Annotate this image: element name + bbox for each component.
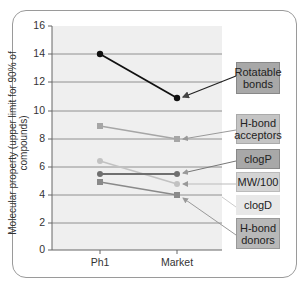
y-tick: 12 (31, 75, 45, 87)
y-tick: 16 (31, 19, 45, 31)
plot-area (52, 26, 222, 250)
legend-hbond-acceptors: H-bond acceptors (236, 114, 280, 144)
y-tick: 14 (31, 47, 45, 59)
y-axis-label: Molecular property (upper limit for 90% … (7, 28, 29, 258)
legend-hbond-donors: H-bond donors (236, 218, 280, 249)
legend-clogd: clogD (236, 195, 280, 215)
y-tick: 8 (31, 132, 45, 144)
y-tick: 6 (31, 160, 45, 172)
legend-clogp: clogP (236, 149, 280, 169)
y-tick: 2 (31, 216, 45, 228)
y-tick: 10 (31, 104, 45, 116)
legend-mw100: MW/100 (236, 172, 280, 192)
x-tick-ph1: Ph1 (75, 256, 125, 268)
y-tick: 0 (31, 243, 45, 255)
x-tick-market: Market (152, 256, 202, 268)
legend-rotatable-bonds: Rotatable bonds (236, 62, 280, 94)
y-tick: 4 (31, 188, 45, 200)
